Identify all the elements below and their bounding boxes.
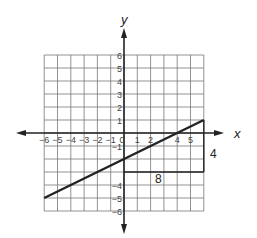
x-axis-left-arrow-icon: [16, 130, 26, 136]
y-tick-label: 1: [117, 116, 122, 126]
x-tick-label: −4: [66, 135, 76, 145]
y-tick-label: −6: [112, 207, 122, 217]
x-tick-label: 1: [135, 135, 140, 145]
x-axis-label: x: [233, 126, 241, 141]
x-tick-label: −2: [92, 135, 102, 145]
coordinate-plane: −6−5−4−3−2−101245654321−1−4−5−6 x y 8 4: [0, 0, 257, 238]
y-tick-label: 4: [117, 77, 122, 87]
y-axis-down-arrow-icon: [121, 224, 127, 234]
rise-label: 4: [210, 147, 217, 161]
y-tick-label: 5: [117, 64, 122, 74]
y-tick-label: −4: [112, 181, 122, 191]
x-tick-label: 4: [175, 135, 180, 145]
x-tick-label: −5: [52, 135, 62, 145]
run-label: 8: [155, 172, 162, 186]
x-tick-label: −6: [39, 135, 49, 145]
x-tick-label: −3: [79, 135, 89, 145]
x-axis-right-arrow-icon: [214, 130, 224, 136]
y-tick-label: 6: [117, 51, 122, 61]
x-tick-label: 2: [148, 135, 153, 145]
y-axis-up-arrow-icon: [121, 28, 127, 38]
x-tick-label: 5: [188, 135, 193, 145]
y-tick-label: −5: [112, 194, 122, 204]
y-tick-label: 3: [117, 90, 122, 100]
y-tick-label: 2: [117, 103, 122, 113]
y-axis-label: y: [120, 12, 129, 27]
y-tick-label: −1: [112, 142, 122, 152]
